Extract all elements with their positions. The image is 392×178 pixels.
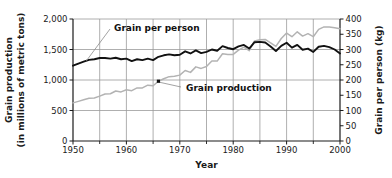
right-axis-tick-label: 250 — [346, 60, 362, 70]
right-axis-tick-label: 300 — [346, 45, 362, 55]
x-axis-tick-label: 1960 — [116, 145, 138, 155]
x-axis-tick-label: 1970 — [169, 145, 191, 155]
right-axis-tick-label: 100 — [346, 106, 362, 116]
x-axis-tick-label: 2000 — [329, 145, 351, 155]
annotation-grain-production: Grain production — [186, 83, 272, 93]
left-axis-tick-label: 2,000 — [43, 14, 67, 24]
right-axis-tick-label: 400 — [346, 14, 362, 24]
x-axis-tick-label: 1980 — [222, 145, 244, 155]
right-axis-tick-label: 200 — [346, 75, 362, 85]
left-axis-tick-label: 500 — [51, 106, 67, 116]
right-axis-tick-label: 50 — [346, 121, 357, 131]
annotation-grain-per-person: Grain per person — [114, 23, 200, 33]
left-axis-title-line1: Grain production — [4, 37, 14, 123]
gridlines — [73, 19, 340, 141]
left-axis-title-line2: (in millions of metric tons) — [16, 13, 26, 148]
x-axis-title: Year — [194, 160, 218, 170]
right-axis-tick-label: 350 — [346, 29, 362, 39]
left-axis-tick-label: 1,500 — [43, 45, 67, 55]
x-axis-tick-label: 1990 — [276, 145, 298, 155]
grain-chart-figure: Grain per personGrain production 05001,0… — [0, 0, 392, 178]
chart-canvas: Grain per personGrain production 05001,0… — [0, 0, 392, 178]
right-axis-tick-label: 150 — [346, 90, 362, 100]
x-axis-tick-label: 1950 — [62, 145, 84, 155]
left-axis-tick-label: 1,000 — [43, 75, 67, 85]
right-axis-title: Grain per person (kg) — [374, 25, 384, 134]
annotation-marker-dot — [157, 80, 160, 83]
